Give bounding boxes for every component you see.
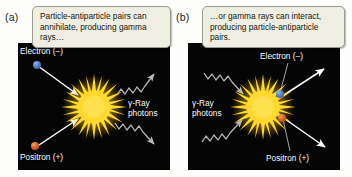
panel-a-letter: (a) [5, 11, 18, 23]
panel-b-letter: (b) [176, 11, 189, 23]
panel-a-positron-dot [31, 142, 39, 150]
panel-a-electron-dot [33, 61, 41, 69]
panel-a-photons-line2: photons [128, 108, 158, 118]
panel-b-stage: Electron (−) Positron (+) γ-Ray photons [188, 43, 340, 170]
panel-a-photons-line1: γ-Ray [128, 98, 150, 108]
panel-a-positron-label: Positron (+) [20, 152, 63, 162]
annihilation-pair-production-figure: (a) Particle-antiparticle pairs can anni… [0, 0, 352, 177]
panel-b-photons-label: γ-Ray photons [192, 98, 238, 118]
panel-b-caption: …or gamma rays can interact, producing p… [202, 6, 345, 48]
panel-a-annihilation-burst [61, 74, 127, 140]
panel-b-positron-label: Positron (+) [266, 153, 309, 163]
panel-a-caption: Particle-antiparticle pairs can annihila… [32, 6, 171, 48]
panel-b-interaction-burst [230, 74, 296, 140]
panel-b-electron-dot [276, 90, 284, 98]
panel-a-photons-label: γ-Ray photons [128, 98, 170, 118]
panel-b-electron-label: Electron (−) [260, 51, 303, 61]
panel-b-positron-dot [278, 114, 286, 122]
panel-b-photons-line1: γ-Ray [192, 98, 214, 108]
panel-a-stage: Electron (−) Positron (+) γ-Ray photons [18, 43, 170, 170]
panel-b-photons-line2: photons [192, 108, 222, 118]
